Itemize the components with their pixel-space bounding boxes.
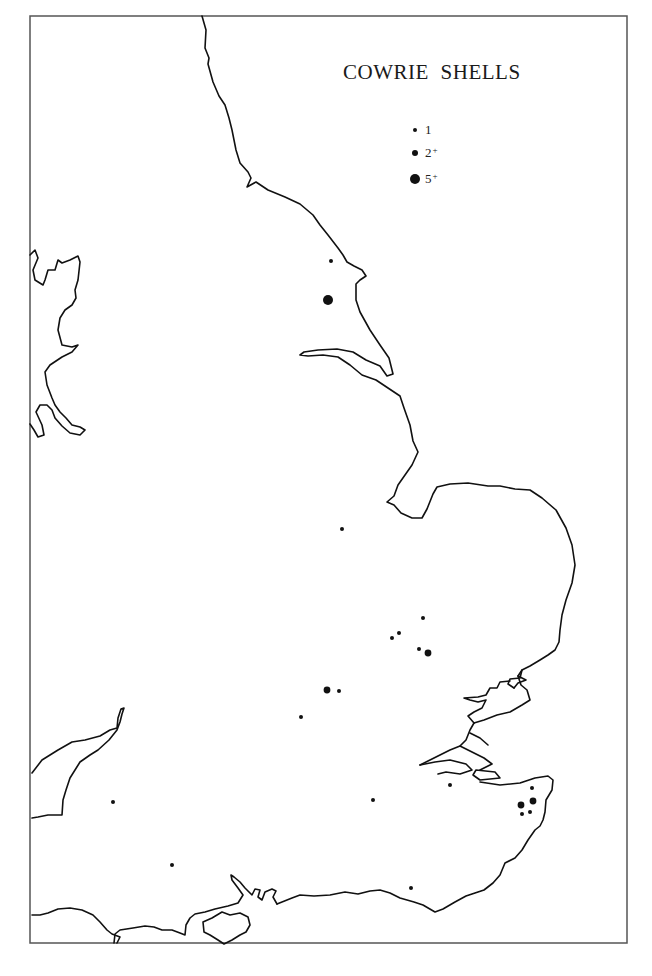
legend-item-5plus: 5+: [410, 171, 438, 187]
site-marker-small: [299, 715, 303, 719]
site-marker-medium: [425, 650, 432, 657]
legend-label: 5: [425, 171, 432, 186]
legend-label: 1: [425, 122, 432, 137]
legend-suffix: +: [433, 171, 438, 181]
site-marker-small: [340, 527, 344, 531]
site-marker-small: [421, 616, 425, 620]
map-border: [30, 16, 627, 943]
large-dot-icon: [410, 174, 420, 184]
site-marker-small: [397, 631, 401, 635]
medium-dot-icon: [412, 150, 418, 156]
site-marker-small: [170, 863, 174, 867]
site-marker-large: [323, 295, 333, 305]
site-marker-small: [371, 798, 375, 802]
site-marker-small: [520, 812, 524, 816]
site-marker-small: [111, 800, 115, 804]
site-marker-small: [390, 636, 394, 640]
site-marker-small: [448, 783, 452, 787]
legend-item-2plus: 2+: [410, 145, 438, 161]
site-marker-small: [329, 259, 333, 263]
site-marker-small: [409, 886, 413, 890]
legend-suffix: +: [433, 145, 438, 155]
site-marker-small: [528, 810, 532, 814]
site-marker-small: [417, 647, 421, 651]
coastline: [30, 16, 575, 944]
legend-item-1: 1: [410, 122, 432, 138]
site-markers: [111, 259, 536, 890]
map-title: COWRIE SHELLS: [343, 60, 521, 85]
site-marker-medium: [324, 687, 331, 694]
site-marker-small: [530, 786, 534, 790]
site-marker-small: [337, 689, 341, 693]
site-marker-medium: [530, 798, 537, 805]
legend-label: 2: [425, 145, 432, 160]
small-dot-icon: [413, 128, 417, 132]
map-canvas: [0, 0, 652, 976]
site-marker-medium: [518, 802, 525, 809]
